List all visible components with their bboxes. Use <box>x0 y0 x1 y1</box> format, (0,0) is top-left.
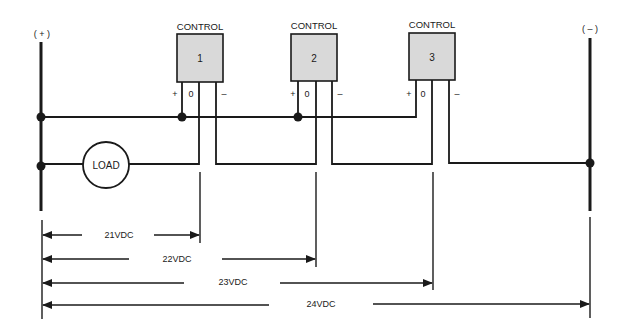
control-1-title: CONTROL <box>177 21 223 32</box>
control-2-number: 2 <box>311 53 317 64</box>
control-3-plus-label: + <box>406 89 411 99</box>
control-3-title: CONTROL <box>409 19 455 30</box>
control-1-plus-label: + <box>172 89 177 99</box>
voltage-22-label: 22VDC <box>162 254 192 264</box>
control-2-zero-label: 0 <box>304 89 309 99</box>
junction-dot <box>37 162 46 171</box>
voltage-23-label: 23VDC <box>218 277 248 287</box>
control-3-minus-label: – <box>454 89 459 99</box>
junction-dot <box>586 159 595 168</box>
supply-bus-wire <box>41 80 416 117</box>
control-2-box: 2 <box>291 34 337 81</box>
control-1-number: 1 <box>197 53 203 64</box>
junction-dot <box>294 113 303 122</box>
control-1-box: 1 <box>177 34 223 82</box>
control-3-box: 3 <box>409 33 455 80</box>
control-3-number: 3 <box>429 52 435 63</box>
positive-rail-label: ( + ) <box>34 29 50 39</box>
voltage-24-label: 24VDC <box>306 299 336 309</box>
negative-rail-label: ( – ) <box>582 24 598 34</box>
load-label: LOAD <box>92 160 119 171</box>
junction-dot <box>178 113 187 122</box>
control-2-minus-label: – <box>337 89 342 99</box>
junction-dot <box>37 113 46 122</box>
control-2-title: CONTROL <box>291 20 337 31</box>
series-control-wiring-diagram: ( + ) ( – ) CONTROL CONTROL CONTROL 1 2 … <box>0 0 628 336</box>
load-circle: LOAD <box>83 142 129 188</box>
control-3-zero-label: 0 <box>420 89 425 99</box>
control-2-plus-label: + <box>290 89 295 99</box>
voltage-21-label: 21VDC <box>104 230 134 240</box>
measurement-extension-lines <box>42 172 590 319</box>
control-1-zero-label: 0 <box>188 89 193 99</box>
control-1-minus-label: – <box>221 89 226 99</box>
